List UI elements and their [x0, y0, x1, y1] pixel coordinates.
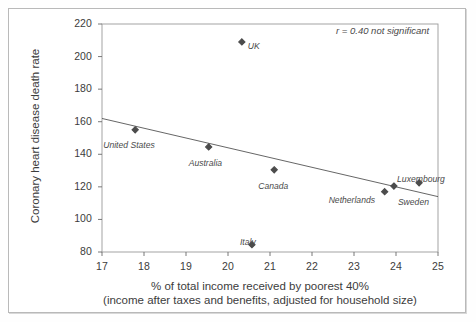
data-point-label: Italy	[240, 237, 256, 247]
x-axis-tick-label: 25	[426, 260, 450, 272]
x-axis-title-line-2: (income after taxes and benefits, adjust…	[60, 293, 460, 307]
y-axis-tick-label: 220	[62, 17, 92, 29]
y-axis-tick-label: 200	[62, 50, 92, 62]
y-axis-title: Coronary heart disease death rate	[29, 31, 41, 241]
x-axis-tick-marks	[102, 252, 438, 256]
x-axis-tick-label: 23	[342, 260, 366, 272]
data-point-label: Sweden	[398, 197, 429, 207]
data-point-label: Australia	[189, 158, 222, 168]
y-axis-tick-marks	[98, 24, 102, 252]
correlation-annotation: r = 0.40 not significant	[336, 25, 429, 36]
x-axis-tick-label: 18	[132, 260, 156, 272]
y-axis-tick-label: 180	[62, 82, 92, 94]
x-axis-tick-label: 17	[90, 260, 114, 272]
x-axis-title-line-1: % of total income received by poorest 40…	[60, 279, 460, 293]
plot-area-frame	[102, 24, 438, 252]
x-axis-tick-label: 22	[300, 260, 324, 272]
y-axis-tick-label: 160	[62, 115, 92, 127]
x-axis-tick-label: 19	[174, 260, 198, 272]
x-axis-tick-label: 21	[258, 260, 282, 272]
y-axis-tick-label: 140	[62, 147, 92, 159]
data-point-label: United States	[103, 140, 155, 150]
x-axis-tick-label: 20	[216, 260, 240, 272]
x-axis-tick-label: 24	[384, 260, 408, 272]
data-point-label: Canada	[258, 181, 288, 191]
y-axis-tick-label: 120	[62, 180, 92, 192]
plot-canvas	[0, 0, 476, 322]
data-point-label: Netherlands	[329, 195, 375, 205]
y-axis-tick-label: 80	[62, 245, 92, 257]
data-point-label: Luxembourg	[397, 174, 445, 184]
y-axis-tick-label: 100	[62, 212, 92, 224]
x-axis-title: % of total income received by poorest 40…	[60, 279, 460, 307]
data-point-label: UK	[248, 41, 260, 51]
figure-scatter-plot: 80100120140160180200220 1718192021222324…	[0, 0, 476, 322]
